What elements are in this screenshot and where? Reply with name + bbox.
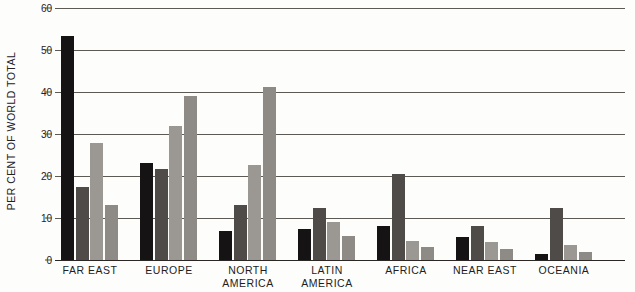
bar [169, 126, 182, 260]
y-tick-mark [45, 50, 52, 51]
bar [184, 96, 197, 260]
axis-baseline [55, 260, 625, 261]
bar-group [140, 8, 198, 260]
bar [76, 187, 89, 260]
bar [550, 208, 563, 261]
bar [421, 247, 434, 260]
bar [248, 165, 261, 260]
x-axis-label-line: NEAR EAST [440, 264, 530, 277]
x-axis-label: NORTHAMERICA [203, 264, 293, 289]
bar-group [535, 8, 593, 260]
bar [500, 249, 513, 260]
x-axis-label-line: EUROPE [124, 264, 214, 277]
bar [471, 226, 484, 260]
bar [155, 169, 168, 260]
y-tick-mark [45, 260, 52, 261]
x-axis-label: OCEANIA [519, 264, 609, 277]
bar-group [219, 8, 277, 260]
x-axis-label-line: AMERICA [203, 277, 293, 290]
bar [579, 252, 592, 260]
bar [263, 87, 276, 260]
bar [485, 242, 498, 260]
x-axis-label-line: AMERICA [282, 277, 372, 290]
bar [219, 231, 232, 260]
bar [406, 241, 419, 260]
bar-group [298, 8, 356, 260]
bar [377, 226, 390, 260]
bar [90, 143, 103, 260]
x-axis-label-line: AFRICA [361, 264, 451, 277]
bar [564, 245, 577, 260]
x-axis-label-line: FAR EAST [45, 264, 135, 277]
bar-chart: PER CENT OF WORLD TOTAL 0102030405060 FA… [0, 0, 635, 292]
y-axis-ticks: 0102030405060 [0, 8, 55, 260]
x-axis-label-line: NORTH [203, 264, 293, 277]
bar [298, 229, 311, 261]
bar [392, 174, 405, 260]
y-tick-mark [45, 8, 52, 9]
y-tick-mark [45, 134, 52, 135]
bar [342, 236, 355, 260]
bar [61, 36, 74, 260]
x-axis-label: FAR EAST [45, 264, 135, 277]
plot-area [55, 8, 625, 260]
x-axis-label: LATINAMERICA [282, 264, 372, 289]
bar [327, 222, 340, 260]
bar [234, 205, 247, 260]
x-axis-label: AFRICA [361, 264, 451, 277]
y-tick-mark [45, 176, 52, 177]
x-axis-label-line: OCEANIA [519, 264, 609, 277]
x-axis-label: EUROPE [124, 264, 214, 277]
x-axis-label: NEAR EAST [440, 264, 530, 277]
bar-group [61, 8, 119, 260]
bar [456, 237, 469, 260]
y-tick-mark [45, 92, 52, 93]
x-axis-category-labels: FAR EASTEUROPENORTHAMERICALATINAMERICAAF… [55, 264, 625, 292]
y-tick-mark [45, 218, 52, 219]
bar-group [377, 8, 435, 260]
bar [535, 254, 548, 260]
bar [140, 163, 153, 260]
x-axis-label-line: LATIN [282, 264, 372, 277]
bar [105, 205, 118, 260]
bar-group [456, 8, 514, 260]
bar [313, 208, 326, 260]
